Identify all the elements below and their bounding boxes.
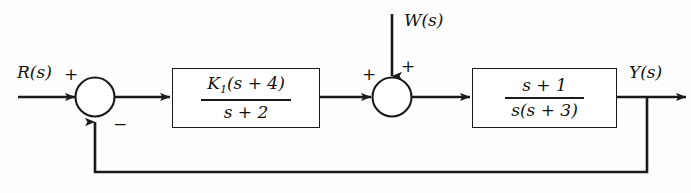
junction1-feedback-minus-sign: −: [113, 116, 127, 133]
plant-numerator: s + 1: [516, 76, 573, 96]
controller-numerator: K1(s + 4): [201, 74, 291, 98]
plant-block: s + 1 s(s + 3): [472, 68, 617, 128]
block-diagram: R(s) W(s) Y(s) + − + + K1(s + 4) s + 2 s…: [0, 0, 691, 193]
error-summing-junction-circle: [76, 78, 115, 117]
plant-denominator: s(s + 3): [505, 100, 584, 120]
junction2-forward-plus-sign: +: [362, 66, 376, 83]
junction1-input-plus-sign: +: [64, 66, 78, 83]
disturbance-summing-junction-circle: [373, 78, 412, 117]
junction2-disturbance-plus-sign: +: [401, 58, 415, 75]
controller-fraction-bar: [201, 99, 291, 101]
controller-denominator: s + 2: [218, 102, 275, 122]
output-signal-label: Y(s): [629, 64, 662, 81]
controller-transfer-function: K1(s + 4) s + 2: [201, 74, 291, 121]
disturbance-signal-label: W(s): [404, 12, 443, 29]
plant-transfer-function: s + 1 s(s + 3): [505, 76, 584, 120]
plant-fraction-bar: [505, 97, 584, 99]
input-signal-label: R(s): [17, 64, 52, 81]
controller-block: K1(s + 4) s + 2: [172, 68, 320, 128]
